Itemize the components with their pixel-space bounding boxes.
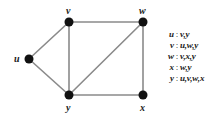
edges-group — [29, 22, 143, 95]
adjacency-row-y: y:u,v,w,x — [161, 73, 219, 84]
graph-node-y — [65, 91, 74, 100]
graph-node-w — [139, 18, 148, 27]
adjacency-vertex-v: v — [161, 40, 174, 51]
graph-figure: uvwyx u:v,yv:u,w,yw:v,x,yx:w,yy:u,v,w,x — [0, 0, 223, 118]
adjacency-neighbors-u: v,y — [180, 29, 189, 40]
graph-edge-u-v — [29, 22, 69, 59]
adjacency-row-u: u:v,y — [161, 29, 219, 40]
graph-node-x — [139, 91, 148, 100]
graph-node-u — [25, 55, 34, 64]
adjacency-row-v: v:u,w,y — [161, 40, 219, 51]
adjacency-neighbors-y: u,v,w,x — [180, 73, 204, 84]
adjacency-vertex-w: w — [161, 51, 174, 62]
adjacency-vertex-y: y — [161, 73, 174, 84]
adjacency-neighbors-w: v,x,y — [180, 51, 196, 62]
node-label-v: v — [66, 6, 70, 16]
graph-node-v — [65, 18, 74, 27]
graph-edge-u-y — [29, 59, 69, 95]
nodes-group — [25, 18, 148, 100]
adjacency-row-w: w:v,x,y — [161, 51, 219, 62]
adjacency-row-x: x:w,y — [161, 62, 219, 73]
adjacency-neighbors-v: u,w,y — [180, 40, 198, 51]
adjacency-list: u:v,yv:u,w,yw:v,x,yx:w,yy:u,v,w,x — [161, 29, 219, 84]
node-label-y: y — [66, 103, 70, 113]
adjacency-neighbors-x: w,y — [180, 62, 191, 73]
graph-edge-w-y — [69, 22, 143, 95]
adjacency-vertex-u: u — [161, 29, 174, 40]
node-label-w: w — [139, 6, 146, 16]
node-label-u: u — [14, 54, 20, 64]
node-label-x: x — [140, 103, 145, 113]
adjacency-vertex-x: x — [161, 62, 174, 73]
